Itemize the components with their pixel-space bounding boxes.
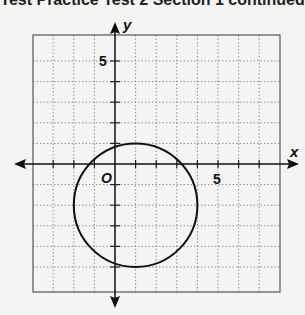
origin-label: O [101,170,112,186]
y-tick-5-label: 5 [99,53,107,69]
y-axis-label: y [122,16,132,33]
x-tick-5-label: 5 [213,171,221,187]
x-axis-label: x [289,143,299,160]
coordinate-graph: x y O 5 5 [0,0,305,315]
